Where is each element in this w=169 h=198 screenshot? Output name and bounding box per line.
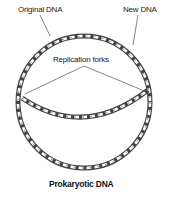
fork-right-line [84,66,147,92]
new-dna-label: New DNA [123,5,157,14]
replication-forks-label: Replication forks [53,55,109,64]
original-leader-line [40,15,50,36]
fork-left-line [25,66,84,94]
inner-dna-strand [22,90,148,117]
new-leader-line [133,15,138,45]
dna-diagram [0,0,169,198]
original-dna-label: Original DNA [18,5,62,14]
diagram-title: Prokaryotic DNA [49,179,114,189]
